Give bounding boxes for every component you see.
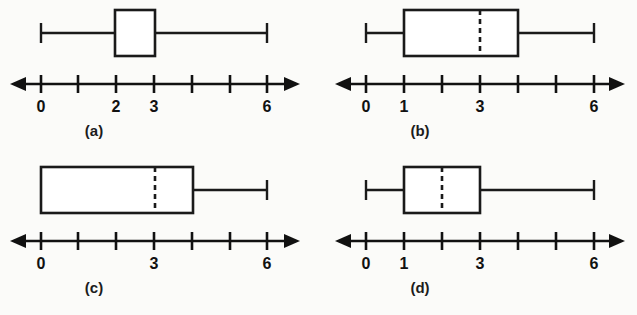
axis-arrow-left-b bbox=[335, 77, 351, 91]
box-b bbox=[404, 10, 518, 56]
axis-tick-label-b-6: 6 bbox=[590, 98, 599, 115]
boxplot-figure: 0 2 3 6 (a) 0 bbox=[0, 0, 637, 315]
axis-arrow-left-c bbox=[10, 234, 26, 248]
panel-b: 0 1 3 6 (b) bbox=[319, 0, 637, 157]
panel-caption-c: (c) bbox=[0, 279, 253, 296]
axis-tick-label-b-3: 3 bbox=[476, 98, 485, 115]
axis-tick-label-d-0: 0 bbox=[362, 255, 371, 272]
panel-a-plot: 0 2 3 6 bbox=[0, 0, 318, 135]
axis-tick-label-c-6: 6 bbox=[263, 255, 272, 272]
axis-arrow-left-a bbox=[10, 77, 26, 91]
panel-caption-d: (d) bbox=[261, 279, 579, 296]
panel-d-plot: 0 1 3 6 bbox=[319, 157, 637, 292]
axis-arrow-left-d bbox=[335, 234, 351, 248]
axis-arrow-right-a bbox=[284, 77, 300, 91]
axis-tick-label-d-1: 1 bbox=[400, 255, 409, 272]
panel-b-plot: 0 1 3 6 bbox=[319, 0, 637, 135]
axis-arrow-right-d bbox=[609, 234, 625, 248]
axis-tick-label-a-0: 0 bbox=[37, 98, 46, 115]
axis-tick-label-c-0: 0 bbox=[37, 255, 46, 272]
panel-caption-a: (a) bbox=[0, 122, 253, 139]
axis-tick-label-d-6: 6 bbox=[590, 255, 599, 272]
axis-tick-label-a-2: 2 bbox=[112, 98, 121, 115]
axis-tick-label-a-6: 6 bbox=[263, 98, 272, 115]
panel-c-plot: 0 3 6 bbox=[0, 157, 318, 292]
axis-tick-label-b-1: 1 bbox=[400, 98, 409, 115]
axis-tick-label-b-0: 0 bbox=[362, 98, 371, 115]
box-c bbox=[41, 167, 193, 213]
panel-d: 0 1 3 6 (d) bbox=[319, 157, 637, 314]
axis-tick-label-a-3: 3 bbox=[150, 98, 159, 115]
box-a bbox=[115, 10, 155, 56]
axis-arrow-right-b bbox=[609, 77, 625, 91]
panel-caption-b: (b) bbox=[261, 122, 579, 139]
axis-arrow-right-c bbox=[284, 234, 300, 248]
axis-tick-label-c-3: 3 bbox=[150, 255, 159, 272]
axis-tick-label-d-3: 3 bbox=[476, 255, 485, 272]
